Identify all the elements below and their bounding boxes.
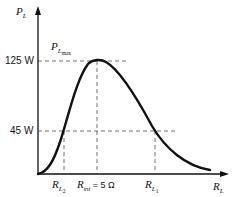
x-tick-rl2: RL2 (52, 179, 65, 195)
peak-label: PLmax (51, 41, 71, 57)
x-axis-arrow-icon (220, 171, 229, 177)
x-tick-rint: Rint = 5 Ω (77, 179, 115, 192)
y-axis-label: PL (16, 6, 27, 20)
power-curve (38, 60, 210, 174)
y-axis-arrow-icon (35, 6, 41, 15)
y-tick-45w: 45 W (10, 126, 33, 136)
power-curve-chart (0, 0, 232, 197)
y-tick-125w: 125 W (5, 56, 34, 66)
x-tick-rl1: RL1 (145, 179, 158, 195)
x-axis-label: RL (213, 181, 224, 195)
